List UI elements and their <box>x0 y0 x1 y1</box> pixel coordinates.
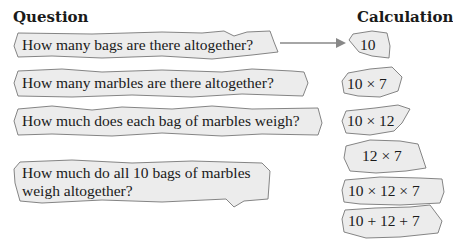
calculation-text: 12 × 7 <box>362 147 402 164</box>
question-text-line1: How much do all 10 bags of marbles <box>22 164 251 181</box>
question-card-total-weight[interactable]: How much do all 10 bags of marbles weigh… <box>12 159 274 207</box>
calculation-text: 10 × 12 <box>347 112 395 129</box>
question-card-bag-weight[interactable]: How much does each bag of marbles weigh? <box>12 105 324 137</box>
calculation-heading: Calculation <box>357 8 453 26</box>
question-text: How much does each bag of marbles weigh? <box>22 112 300 129</box>
calculation-text: 10 × 7 <box>347 75 387 92</box>
calculation-text: 10 <box>360 36 376 53</box>
arrow-icon <box>278 36 348 50</box>
calculation-card-10[interactable]: 10 <box>347 30 393 60</box>
calculation-text: 10 × 12 × 7 <box>348 182 420 199</box>
question-card-bags[interactable]: How many bags are there altogether? <box>12 30 282 60</box>
calculation-text: 10 + 12 + 7 <box>348 212 420 229</box>
calculation-card-10x7[interactable]: 10 × 7 <box>340 67 406 99</box>
question-text: How many bags are there altogether? <box>22 36 253 53</box>
calculation-card-10x12[interactable]: 10 × 12 <box>340 105 414 137</box>
calculation-card-10x12x7[interactable]: 10 × 12 × 7 <box>340 176 446 206</box>
calculation-card-10plus12plus7[interactable]: 10 + 12 + 7 <box>340 205 444 238</box>
calculation-card-12x7[interactable]: 12 × 7 <box>340 138 428 174</box>
question-heading: Question <box>13 8 89 26</box>
question-text: How many marbles are there altogether? <box>22 74 274 91</box>
question-text-line2: weigh altogether? <box>22 182 133 199</box>
question-card-marbles[interactable]: How many marbles are there altogether? <box>12 68 310 98</box>
